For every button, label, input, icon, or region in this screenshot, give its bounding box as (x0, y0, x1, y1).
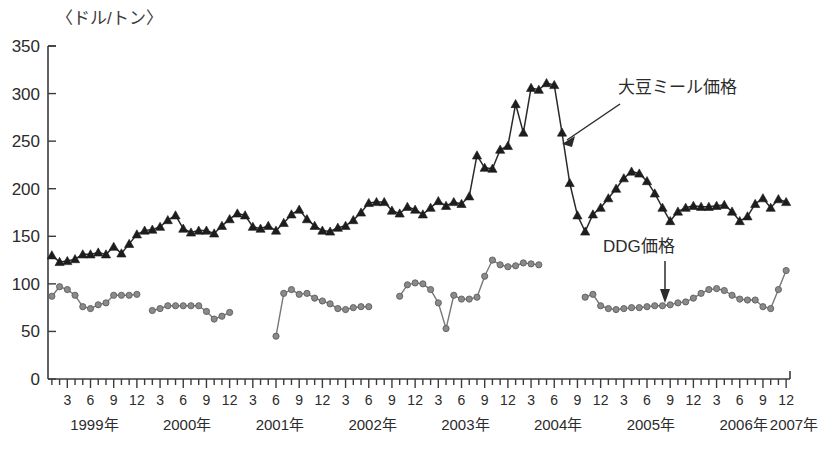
data-point-marker (94, 248, 103, 256)
x-tick-label: 6 (458, 392, 466, 408)
y-axis-ticks (48, 46, 56, 379)
y-tick-label: 200 (12, 180, 40, 199)
data-point-marker (404, 282, 410, 288)
x-axis-year-label: 2006年 (719, 416, 767, 433)
data-point-marker (636, 305, 642, 311)
data-point-marker (644, 304, 650, 310)
x-tick-label: 9 (759, 392, 767, 408)
data-point-marker (581, 227, 590, 235)
data-point-marker (482, 273, 488, 279)
data-point-marker (627, 167, 636, 175)
data-point-marker (489, 257, 495, 263)
series-ddg-price (49, 257, 789, 339)
y-axis-tick-labels: 050100150200250300350 (12, 37, 40, 389)
series-soybean-meal-price (47, 79, 790, 266)
data-point-marker (783, 267, 789, 273)
data-point-marker (95, 302, 101, 308)
series-line-segment (276, 290, 369, 337)
data-point-marker (366, 304, 372, 310)
x-tick-label: 9 (481, 392, 489, 408)
data-point-marker (134, 291, 140, 297)
x-tick-label: 9 (110, 392, 118, 408)
data-point-marker (219, 313, 225, 319)
data-point-marker (434, 196, 443, 204)
data-point-marker (157, 305, 163, 311)
data-point-marker (505, 264, 511, 270)
data-point-marker (56, 284, 62, 290)
data-point-marker (350, 305, 356, 311)
x-tick-label: 6 (272, 392, 280, 408)
data-point-marker (109, 242, 118, 250)
x-tick-label: 6 (643, 392, 651, 408)
data-point-marker (713, 286, 719, 292)
x-tick-label: 12 (686, 392, 702, 408)
x-tick-label: 6 (736, 392, 744, 408)
data-point-marker (472, 151, 481, 159)
data-point-marker (511, 99, 520, 107)
data-point-marker (427, 286, 433, 292)
data-point-marker (721, 287, 727, 293)
data-point-marker (720, 200, 729, 208)
data-point-marker (760, 304, 766, 310)
data-point-marker (582, 294, 588, 300)
data-point-marker (304, 290, 310, 296)
data-point-marker (342, 306, 348, 312)
x-tick-label: 3 (527, 392, 535, 408)
data-point-marker (667, 302, 673, 308)
y-tick-label: 250 (12, 132, 40, 151)
annotation-soybean-meal-arrow-line (567, 104, 620, 140)
x-axis-year-label: 2002年 (348, 416, 396, 433)
y-tick-label: 100 (12, 275, 40, 294)
x-tick-label: 6 (550, 392, 558, 408)
data-point-marker (165, 303, 171, 309)
data-point-marker (565, 178, 574, 186)
data-point-marker (690, 295, 696, 301)
x-tick-label: 9 (203, 392, 211, 408)
x-axis-year-label: 2005年 (627, 416, 675, 433)
data-point-marker (196, 303, 202, 309)
data-point-marker (179, 224, 188, 232)
data-point-marker (227, 309, 233, 315)
data-point-marker (80, 304, 86, 310)
data-point-marker (520, 260, 526, 266)
x-tick-label: 9 (666, 392, 674, 408)
x-tick-label: 12 (315, 392, 331, 408)
data-point-marker (318, 226, 327, 234)
x-tick-label: 9 (574, 392, 582, 408)
data-point-marker (743, 212, 752, 220)
series-line-segment (400, 260, 539, 329)
x-tick-label: 3 (620, 392, 628, 408)
data-point-marker (281, 290, 287, 296)
data-point-marker (171, 211, 180, 219)
annotation-ddg: DDG価格 (603, 237, 675, 303)
data-point-marker (683, 299, 689, 305)
data-point-marker (203, 308, 209, 314)
data-point-marker (319, 298, 325, 304)
y-tick-label: 300 (12, 85, 40, 104)
data-point-marker (621, 305, 627, 311)
data-point-marker (628, 305, 634, 311)
data-point-marker (312, 295, 318, 301)
x-tick-label: 3 (156, 392, 164, 408)
x-axis-year-label: 2001年 (256, 416, 304, 433)
data-point-marker (474, 294, 480, 300)
data-point-marker (605, 305, 611, 311)
data-point-marker (288, 286, 294, 292)
x-tick-label: 3 (63, 392, 71, 408)
data-point-marker (211, 316, 217, 322)
annotation-ddg-label: DDG価格 (603, 237, 675, 256)
data-point-marker (443, 325, 449, 331)
data-point-marker (296, 291, 302, 297)
x-tick-label: 12 (778, 392, 794, 408)
data-point-marker (659, 303, 665, 309)
data-point-marker (420, 281, 426, 287)
data-point-marker (729, 292, 735, 298)
data-point-marker (675, 300, 681, 306)
data-point-marker (233, 209, 242, 217)
data-point-marker (752, 297, 758, 303)
data-point-marker (497, 262, 503, 268)
x-axis-ticks (52, 379, 786, 388)
data-point-marker (87, 305, 93, 311)
soybean-meal-ddg-price-chart: 〈ドル/トン〉 050100150200250300350 3691236912… (0, 0, 830, 449)
x-tick-label: 3 (342, 392, 350, 408)
